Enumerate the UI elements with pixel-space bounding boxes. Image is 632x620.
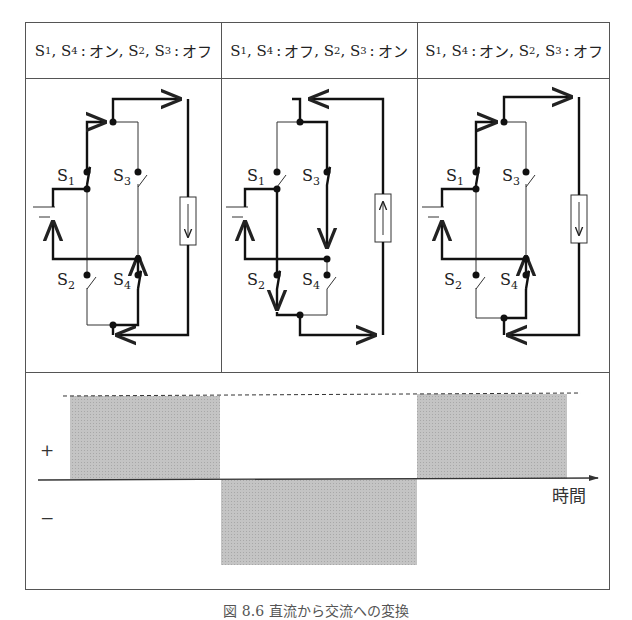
positive-pulse-1 bbox=[70, 396, 220, 479]
negative-pulse bbox=[221, 479, 417, 565]
plus-label: + bbox=[40, 440, 54, 460]
minus-label: − bbox=[40, 508, 54, 528]
time-axis-label: 時間 bbox=[552, 486, 586, 506]
figure-caption: 図 8.6 直流から交流への変換 bbox=[0, 600, 632, 620]
positive-pulse-2 bbox=[417, 394, 567, 479]
